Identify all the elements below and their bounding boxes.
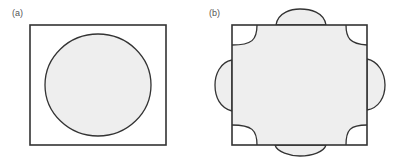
panel-b [215, 9, 385, 156]
panel-b-top-lobe [276, 9, 326, 25]
panel-a-circle [45, 34, 151, 136]
panel-b-bottom-lobe [275, 145, 326, 156]
diagram-canvas [0, 0, 398, 168]
panel-b-filled-region [232, 25, 367, 145]
panel-b-right-lobe [367, 59, 385, 110]
panel-b-left-lobe [215, 60, 232, 111]
panel-a [30, 25, 166, 145]
